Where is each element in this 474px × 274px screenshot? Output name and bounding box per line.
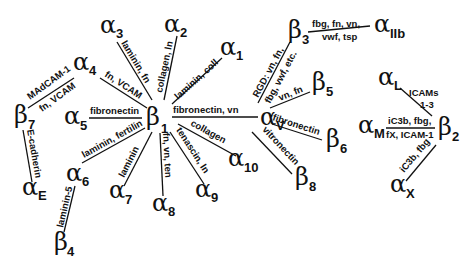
node-alpha3: α 3 xyxy=(100,11,123,41)
svg-text:4: 4 xyxy=(67,244,75,259)
svg-text:10: 10 xyxy=(244,160,258,175)
svg-text:β: β xyxy=(146,103,160,131)
label-b1-a5: fibronectin xyxy=(90,105,139,116)
svg-text:α: α xyxy=(260,103,276,131)
svg-text:IIb: IIb xyxy=(390,26,405,41)
svg-text:α: α xyxy=(220,33,236,61)
node-beta6: β 6 xyxy=(326,125,347,156)
node-beta1: β 1 xyxy=(146,103,168,136)
node-alpha-IIb: α IIb xyxy=(374,10,405,41)
node-alpha2: α 2 xyxy=(164,10,187,40)
label-aL-b2-top: ICAMs xyxy=(409,87,439,98)
node-alpha-v: α V xyxy=(260,103,285,133)
svg-text:α: α xyxy=(73,48,89,76)
integrin-diagram: laminin, coll collagen, ln laminin, fn f… xyxy=(0,0,474,274)
label-aX-b2: iC3b, fbg xyxy=(397,136,432,174)
label-b1-av: fibronectin, vn xyxy=(173,104,239,115)
svg-text:β: β xyxy=(54,228,68,256)
svg-text:3: 3 xyxy=(302,32,309,47)
label-a6-b4: laminin-5 xyxy=(54,185,74,229)
label-aM-b2-bottom: fX, ICAM-1 xyxy=(386,129,434,140)
svg-text:β: β xyxy=(14,101,28,129)
node-alpha8: α 8 xyxy=(152,189,175,219)
svg-text:E: E xyxy=(38,188,47,203)
svg-text:2: 2 xyxy=(180,25,187,40)
svg-text:α: α xyxy=(66,159,82,187)
svg-text:α: α xyxy=(109,176,125,204)
svg-text:α: α xyxy=(374,10,390,38)
svg-text:β: β xyxy=(326,125,340,153)
svg-text:α: α xyxy=(195,175,211,203)
node-beta5: β 5 xyxy=(312,68,333,99)
svg-text:X: X xyxy=(406,186,415,201)
svg-text:β: β xyxy=(438,113,452,141)
label-b1-a1: laminin, coll xyxy=(172,57,220,102)
label-b1-a2: collagen, ln xyxy=(153,40,175,94)
svg-text:2: 2 xyxy=(452,129,459,144)
svg-text:β: β xyxy=(288,16,302,44)
node-alpha9: α 9 xyxy=(195,175,218,205)
svg-text:6: 6 xyxy=(340,141,347,156)
label-aM-b2-top: iC3b, fbg, xyxy=(388,115,431,126)
svg-text:α: α xyxy=(390,170,406,198)
node-beta2: β 2 xyxy=(438,113,459,144)
node-alpha-M: α M xyxy=(358,111,385,141)
node-beta4: β 4 xyxy=(54,228,75,259)
svg-text:α: α xyxy=(100,11,116,39)
svg-text:β: β xyxy=(312,68,326,96)
node-beta8: β 8 xyxy=(295,163,316,194)
node-beta3: β 3 xyxy=(288,16,309,47)
svg-text:8: 8 xyxy=(309,179,316,194)
svg-text:L: L xyxy=(394,78,402,93)
svg-text:M: M xyxy=(374,126,385,141)
node-alpha6: α 6 xyxy=(66,159,89,189)
label-b7-aE: E-cadherin xyxy=(25,128,44,178)
node-alpha5: α 5 xyxy=(64,102,87,133)
svg-text:8: 8 xyxy=(168,204,175,219)
svg-text:9: 9 xyxy=(211,190,218,205)
svg-text:β: β xyxy=(295,163,309,191)
svg-text:α: α xyxy=(164,10,180,38)
svg-text:α: α xyxy=(152,189,168,217)
node-alpha-L: α L xyxy=(378,63,402,93)
svg-text:α: α xyxy=(228,144,244,172)
svg-text:V: V xyxy=(276,118,285,133)
svg-text:3: 3 xyxy=(116,26,123,41)
svg-text:1: 1 xyxy=(161,121,168,136)
node-alpha4: α 4 xyxy=(73,48,97,78)
label-b1-a8: fn, vn, ten xyxy=(161,133,174,179)
svg-text:5: 5 xyxy=(80,118,87,133)
svg-text:α: α xyxy=(378,63,394,91)
svg-text:7: 7 xyxy=(28,117,35,132)
svg-text:5: 5 xyxy=(326,84,333,99)
node-alpha-E: α E xyxy=(22,173,47,203)
node-alpha7: α 7 xyxy=(109,176,132,207)
node-alpha1: α 1 xyxy=(220,33,243,63)
svg-text:α: α xyxy=(64,102,80,130)
svg-text:1: 1 xyxy=(236,48,243,63)
svg-text:α: α xyxy=(358,111,374,139)
node-alpha10: α 10 xyxy=(228,144,258,175)
label-b3-aIIb-bottom: vwf, tsp xyxy=(322,31,358,42)
svg-text:4: 4 xyxy=(89,63,97,78)
svg-text:7: 7 xyxy=(125,192,132,207)
svg-text:6: 6 xyxy=(82,174,89,189)
label-b3-aIIb-top: fbg, fn, vn, xyxy=(312,18,360,29)
label-aL-b2-bottom: 1-3 xyxy=(420,99,434,110)
svg-text:α: α xyxy=(22,173,38,201)
